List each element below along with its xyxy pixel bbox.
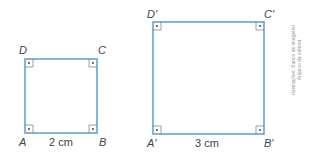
right-angle-dots-abcd bbox=[28, 62, 94, 130]
vertex-label-d: D bbox=[19, 45, 27, 56]
vertex-label-d-prime: D' bbox=[147, 9, 157, 20]
right-angle-markers-a1b1c1d1 bbox=[153, 22, 264, 134]
figure: D C A B 2 cm D' C' A' B' 3 cm Ilustraçõe… bbox=[0, 0, 320, 159]
image-credit: Ilustrações: Banco de imagens/ Arquivo d… bbox=[290, 0, 302, 120]
vertex-label-c-prime: C' bbox=[264, 9, 274, 20]
credit-line-2: Arquivo da editora bbox=[296, 0, 302, 120]
side-length-label: 3 cm bbox=[195, 138, 219, 149]
right-angle-markers-abcd bbox=[25, 59, 97, 133]
vertex-label-b-prime: B' bbox=[264, 138, 273, 149]
squares-drawing bbox=[0, 0, 320, 159]
square-a1b1c1d1 bbox=[153, 22, 264, 134]
vertex-label-a: A bbox=[19, 137, 26, 148]
vertex-label-c: C bbox=[98, 45, 106, 56]
vertex-label-b: B bbox=[99, 137, 106, 148]
vertex-label-a-prime: A' bbox=[147, 138, 156, 149]
square-abcd bbox=[25, 59, 97, 133]
side-length-label: 2 cm bbox=[49, 137, 73, 148]
right-angle-dots-a1b1c1d1 bbox=[156, 25, 261, 131]
